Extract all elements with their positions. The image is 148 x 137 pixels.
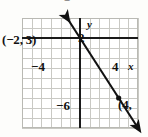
line-overlay: [0, 0, 148, 137]
graph-figure: = (−2, 3) (4, 2 −6 −4 4 y x: [0, 0, 148, 137]
x-tick-label-neg4: −4: [31, 60, 45, 73]
y-tick-label-neg6: −6: [56, 99, 70, 112]
x-axis-label: x: [128, 61, 134, 72]
point-label-right: (4,: [118, 98, 131, 111]
y-axis-label: y: [87, 19, 92, 30]
point-label-left: (−2, 3): [2, 33, 36, 46]
x-tick-label-4: 4: [112, 60, 119, 73]
y-tick-label-2: 2: [78, 31, 85, 44]
